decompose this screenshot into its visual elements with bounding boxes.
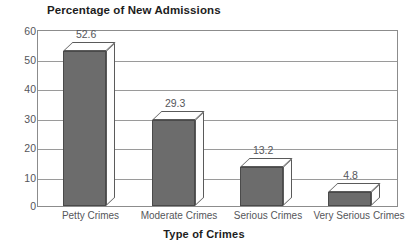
bar-front-face: [63, 51, 106, 206]
y-axis-tick-30: 30: [10, 113, 36, 125]
bar-front-face: [152, 120, 195, 206]
x-axis-label-very-serious-crimes: Very Serious Crimes: [296, 210, 408, 221]
y-axis-tick-20: 20: [10, 142, 36, 154]
bar-serious-crimes[interactable]: 13.2: [240, 167, 283, 206]
x-axis-title: Type of Crimes: [0, 228, 408, 240]
bar-value-label: 52.6: [76, 28, 96, 40]
bar-side-face: [106, 43, 115, 206]
bar-front-face: [328, 192, 371, 206]
bar-very-serious-crimes[interactable]: 4.8: [328, 192, 371, 206]
y-axis-tick-10: 10: [10, 172, 36, 184]
bar-front-face: [240, 167, 283, 206]
bar-moderate-crimes[interactable]: 29.3: [152, 120, 195, 206]
y-axis-tick-40: 40: [10, 83, 36, 95]
bar-value-label: 4.8: [343, 169, 358, 181]
chart-title: Percentage of New Admissions: [47, 4, 221, 16]
bar-chart: Percentage of New Admissions 52.6 29.3 1…: [0, 0, 408, 251]
bar-side-face: [195, 112, 204, 206]
bar-value-label: 29.3: [165, 97, 185, 109]
bar-value-label: 13.2: [253, 144, 273, 156]
y-axis-tick-60: 60: [10, 25, 36, 37]
plot-area: 52.6 29.3 13.2 4.8: [37, 30, 398, 207]
bar-petty-crimes[interactable]: 52.6: [63, 51, 106, 206]
y-axis-tick-50: 50: [10, 54, 36, 66]
